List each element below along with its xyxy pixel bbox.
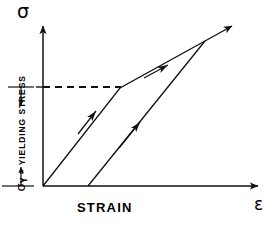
x-axis-caption-label: STRAIN [77, 201, 133, 214]
yield-stress-dimension-label: σY = YIELDING STRESS [14, 80, 29, 192]
yield-sigma-subscript: Y [20, 177, 29, 183]
stress-strain-plot-svg [0, 0, 277, 226]
y-axis-symbol-label: σ [17, 2, 29, 21]
x-axis-symbol-label: ε [254, 196, 263, 213]
first-loading-path [43, 26, 232, 186]
arrow-hardening-branch [144, 65, 168, 78]
yield-label-text: = YIELDING STRESS [17, 75, 27, 174]
stress-strain-figure: σ ε STRAIN σY = YIELDING STRESS [0, 0, 277, 226]
reloading-path [88, 41, 205, 186]
arrow-reloading-branch [119, 122, 140, 148]
yield-sigma-glyph: σ [13, 183, 28, 191]
